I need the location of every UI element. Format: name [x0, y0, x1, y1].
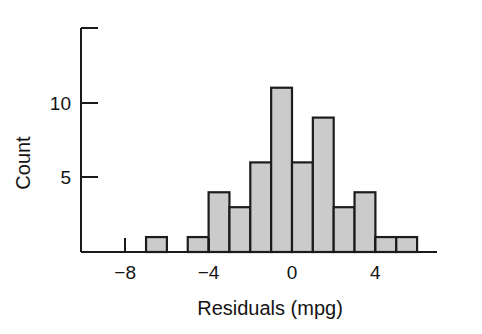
histogram-bar: [146, 237, 167, 252]
histogram-bar: [355, 192, 376, 252]
histogram-bar: [188, 237, 209, 252]
x-axis-tick-label: 4: [370, 262, 381, 283]
x-axis-title: Residuals (mpg): [197, 297, 343, 319]
x-axis-tick-label: −8: [114, 262, 136, 283]
x-axis-tick-labels: −8−404: [114, 262, 381, 283]
x-axis-tick-label: −4: [198, 262, 220, 283]
histogram-figure: 510 −8−404 Residuals (mpg) Count: [0, 0, 482, 334]
histogram-bar: [334, 207, 355, 252]
histogram-bar: [375, 237, 396, 252]
y-axis-tick-labels: 510: [50, 93, 71, 189]
y-axis-ticks: [81, 28, 98, 177]
histogram-bar: [209, 192, 230, 252]
histogram-bar: [250, 162, 271, 252]
histogram-bars: [146, 88, 417, 252]
y-axis-tick-label: 5: [60, 167, 71, 188]
y-axis-title: Count: [12, 136, 34, 190]
y-axis-tick-label: 10: [50, 93, 71, 114]
histogram-bar: [313, 118, 334, 252]
residuals-histogram-chart: 510 −8−404 Residuals (mpg) Count: [0, 0, 482, 334]
x-axis-tick-label: 0: [287, 262, 298, 283]
histogram-bar: [396, 237, 417, 252]
histogram-bar: [271, 88, 292, 252]
histogram-bar: [229, 207, 250, 252]
histogram-bar: [292, 162, 313, 252]
